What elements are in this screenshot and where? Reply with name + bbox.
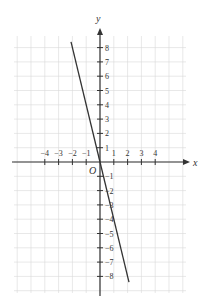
y-axis-arrow-icon [97, 28, 103, 35]
y-tick-label: 6 [105, 72, 109, 81]
x-tick-label: −4 [41, 149, 50, 158]
y-tick-label: 2 [105, 129, 109, 138]
y-tick-label: −1 [105, 172, 114, 181]
x-tick-label: −3 [54, 149, 63, 158]
y-tick-label: −8 [105, 272, 114, 281]
y-tick-label: 3 [105, 115, 109, 124]
origin-label: O [89, 165, 96, 176]
y-tick-label: 7 [105, 58, 109, 67]
y-tick-label: 4 [105, 101, 109, 110]
y-tick-label: 1 [105, 144, 109, 153]
x-axis-label: x [192, 157, 198, 168]
coordinate-plane: −4−3−2−1123487654321−1−2−3−4−5−6−7−8 x y… [0, 0, 209, 307]
y-tick-label: −6 [105, 244, 114, 253]
y-axis-label: y [95, 13, 101, 24]
y-tick-label: −7 [105, 258, 114, 267]
y-tick-label: −4 [105, 215, 114, 224]
axes [12, 28, 190, 296]
x-tick-label: −2 [68, 149, 77, 158]
x-tick-label: 1 [112, 149, 116, 158]
x-tick-label: 2 [126, 149, 130, 158]
x-tick-label: 3 [139, 149, 143, 158]
y-tick-label: 8 [105, 44, 109, 53]
y-tick-label: −5 [105, 230, 114, 239]
x-tick-label: 4 [153, 149, 157, 158]
x-tick-label: −1 [82, 149, 91, 158]
x-axis-arrow-icon [183, 159, 190, 165]
y-tick-label: 5 [105, 87, 109, 96]
